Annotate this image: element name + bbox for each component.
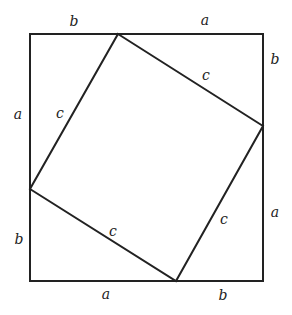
side-label-a: a: [271, 204, 279, 220]
side-label-a: a: [14, 106, 22, 122]
side-label-a: a: [102, 286, 110, 302]
side-label-b: b: [15, 231, 24, 247]
side-label-c: c: [220, 211, 228, 227]
side-label-b: b: [271, 51, 280, 67]
inner-square: [30, 34, 263, 281]
pythagorean-diagram: babcacacbcab: [0, 0, 292, 315]
side-label-c: c: [56, 105, 64, 121]
outer-square: [30, 34, 263, 281]
side-label-b: b: [70, 13, 79, 29]
diagram-canvas: [0, 0, 292, 315]
side-label-c: c: [109, 223, 117, 239]
side-label-a: a: [201, 12, 209, 28]
side-label-c: c: [202, 67, 210, 83]
side-label-b: b: [219, 287, 228, 303]
